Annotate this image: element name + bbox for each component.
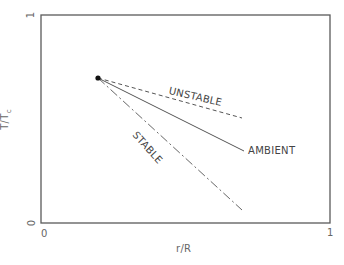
y-tick-0: 0: [27, 220, 37, 226]
x-tick-0: 0: [41, 229, 47, 239]
y-axis-label-main: T/T: [0, 113, 10, 130]
x-axis-label: r/R: [176, 244, 191, 254]
plot-frame: [41, 15, 330, 223]
x-tick-1: 1: [327, 228, 333, 238]
ambient-label: AMBIENT: [248, 146, 295, 156]
y-axis-label: T/Tc: [0, 109, 13, 130]
plot-svg: [0, 0, 344, 265]
origin-point: [95, 75, 100, 80]
y-tick-1: 1: [26, 12, 36, 18]
chart: 1 0 0 1 r/R T/Tc UNSTABLE AMBIENT STABLE: [0, 0, 344, 265]
y-axis-label-sub: c: [5, 109, 13, 113]
